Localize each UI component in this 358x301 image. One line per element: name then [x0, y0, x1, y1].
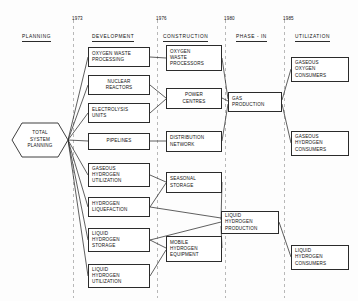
node-nuclear-reactors[interactable]: NUCLEARREACTORS: [88, 75, 150, 95]
node-liquid-hydrogen-production[interactable]: LIQUIDHYDROGENPRODUCTION: [221, 211, 279, 234]
node-seasonal-storage[interactable]: SEASONALSTORAGE: [166, 172, 222, 193]
node-power-centres[interactable]: POWERCENTRES: [166, 88, 222, 109]
node-mobile-hydrogen-equipment[interactable]: MOBILEHYDROGENEQUIPMENT: [166, 236, 222, 262]
edge-nuclear-reactors-to-power-centres: [150, 85, 166, 98]
edge-liquid-hydrogen-production-to-liquid-hydrogen-consumers: [279, 222, 291, 257]
phase-header-construction: CONSTRUCTION: [163, 34, 208, 42]
system-planning-diagram: 1973197619801985 PLANNINGDEVELOPMENTCONS…: [0, 0, 358, 301]
edge-total-system-planning-to-gaseous-hydrogen-utilization: [68, 140, 88, 175]
node-label-line: PIPELINES: [106, 138, 131, 144]
node-label-line: NETWORK: [170, 142, 219, 148]
year-label-1973: 1973: [72, 16, 83, 21]
edge-total-system-planning-to-liquid-hydrogen-utilization: [68, 140, 88, 276]
node-label-line: UNITS: [92, 113, 147, 119]
node-label-line: PRODUCTION: [232, 102, 279, 108]
edge-gas-production-to-gaseous-hydrogen-consumers: [282, 104, 291, 143]
node-electrolysis-units[interactable]: ELECTROLYSISUNITS: [88, 103, 150, 123]
node-label-line: PRODUCTION: [225, 226, 276, 232]
node-label-line: CENTRES: [182, 99, 205, 105]
edge-liquid-hydrogen-utilization-to-mobile-hydrogen-equipment: [150, 250, 166, 276]
edge-hydrogen-liquefaction-to-liquid-hydrogen-production: [150, 207, 221, 218]
node-pipelines[interactable]: PIPELINES: [88, 133, 150, 150]
phase-header-utilization: UTILIZATION: [295, 34, 330, 42]
node-label-line: UTILIZATION: [92, 279, 147, 285]
node-label-line: STORAGE: [170, 183, 219, 189]
year-label-1976: 1976: [156, 16, 167, 21]
node-label-line: LIQUEFACTION: [92, 207, 147, 213]
node-gaseous-hydrogen-utilization[interactable]: GASEOUSHYDROGENUTILIZATION: [88, 163, 150, 187]
edge-oxygen-waste-processing-to-oxygen-waste-processors: [150, 57, 166, 58]
node-label-line: CONSUMERS: [295, 73, 346, 79]
node-label-line: CONSUMERS: [295, 261, 346, 267]
node-liquid-hydrogen-utilization[interactable]: LIQUIDHYDROGENUTILIZATION: [88, 264, 150, 288]
node-label-line: PROCESSORS: [170, 61, 219, 67]
edge-electrolysis-units-to-power-centres: [150, 99, 166, 113]
node-gaseous-oxygen-consumers[interactable]: GASEOUSOXYGENCONSUMERS: [291, 57, 349, 82]
edge-total-system-planning-to-pipelines: [68, 140, 88, 141]
node-total-system-planning[interactable]: TOTALSYSTEMPLANNING: [12, 123, 68, 157]
node-label-line: CONSUMERS: [295, 147, 346, 153]
phase-header-planning: PLANNING: [22, 34, 51, 42]
edge-total-system-planning-to-liquid-hydrogen-storage: [68, 140, 88, 240]
node-label-line: STORAGE: [92, 243, 147, 249]
node-oxygen-waste-processors[interactable]: OXYGENWASTEPROCESSORS: [166, 45, 222, 71]
node-label-line: PROCESSING: [92, 57, 147, 63]
node-liquid-hydrogen-storage[interactable]: LIQUIDHYDROGENSTORAGE: [88, 228, 150, 252]
edge-total-system-planning-to-hydrogen-liquefaction: [68, 140, 88, 207]
phase-header-phase-in: PHASE - IN: [236, 34, 267, 42]
edge-gas-production-to-gaseous-oxygen-consumers: [282, 69, 291, 100]
edge-total-system-planning-to-oxygen-waste-processing: [68, 57, 88, 140]
node-label-line: PLANNING: [27, 143, 52, 149]
node-gaseous-hydrogen-consumers[interactable]: GASEOUSHYDROGENCONSUMERS: [291, 131, 349, 156]
year-label-1985: 1985: [283, 16, 294, 21]
node-label-line: EQUIPMENT: [170, 252, 219, 258]
year-label-1980: 1980: [224, 16, 235, 21]
node-gas-production[interactable]: GASPRODUCTION: [228, 92, 282, 112]
node-oxygen-waste-processing[interactable]: OXYGEN WASTEPROCESSING: [88, 47, 150, 67]
node-label-line: UTILIZATION: [92, 178, 147, 184]
node-label-line: REACTORS: [106, 85, 133, 91]
node-distribution-network[interactable]: DISTRIBUTIONNETWORK: [166, 131, 222, 152]
node-liquid-hydrogen-consumers[interactable]: LIQUIDHYDROGENCONSUMERS: [291, 245, 349, 270]
phase-header-development: DEVELOPMENT: [92, 34, 134, 42]
edge-liquid-hydrogen-storage-to-mobile-hydrogen-equipment: [150, 240, 166, 248]
node-hydrogen-liquefaction[interactable]: HYDROGENLIQUEFACTION: [88, 197, 150, 217]
edge-hydrogen-liquefaction-to-seasonal-storage: [150, 183, 166, 207]
edge-gaseous-hydrogen-utilization-to-seasonal-storage: [150, 175, 166, 182]
edge-total-system-planning-to-nuclear-reactors: [68, 85, 88, 140]
